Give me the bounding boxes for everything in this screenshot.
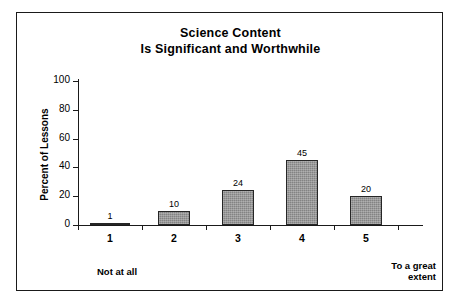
y-tick-label-0: 0 [40, 218, 70, 229]
y-tick-20: 20 [78, 196, 79, 197]
chart-title-line-1: Science Content [17, 25, 444, 41]
y-tick-label-40: 40 [40, 160, 70, 171]
bar-category-4[interactable]: 45 [286, 160, 318, 225]
bar-value-5: 20 [361, 184, 371, 194]
bar-value-4: 45 [297, 148, 307, 158]
y-axis-line [78, 79, 79, 227]
annotation-not-at-all: Not at all [97, 266, 137, 277]
y-tick-40: 40 [78, 167, 79, 168]
y-tick-label-20: 20 [40, 189, 70, 200]
x-category-label-1: 1 [107, 232, 113, 244]
bar-group-3: 24 3 [222, 81, 254, 225]
bar-value-3: 24 [233, 178, 243, 188]
bar-category-3[interactable]: 24 [222, 190, 254, 225]
annotation-high-line-1: To a great [336, 260, 436, 271]
x-axis-line [78, 225, 423, 226]
bar-group-2: 10 2 [158, 81, 190, 225]
bar-category-2[interactable]: 10 [158, 211, 190, 225]
x-category-label-3: 3 [235, 232, 241, 244]
chart-frame: Science Content Is Significant and Worth… [16, 12, 443, 291]
annotation-high-line-2: extent [336, 271, 436, 282]
bar-group-4: 45 4 [286, 81, 318, 225]
y-tick-60: 60 [78, 139, 79, 140]
x-tick-5 [398, 226, 399, 230]
bar-group-5: 20 5 [350, 81, 382, 225]
x-category-label-5: 5 [363, 232, 369, 244]
x-tick-3 [270, 226, 271, 230]
y-tick-label-100: 100 [40, 74, 70, 85]
plot-area: 0 20 40 60 80 100 [78, 81, 423, 225]
chart-title: Science Content Is Significant and Worth… [17, 25, 444, 57]
y-tick-label-80: 80 [40, 103, 70, 114]
bar-value-2: 10 [169, 199, 179, 209]
x-category-label-2: 2 [171, 232, 177, 244]
chart-title-line-2: Is Significant and Worthwhile [17, 41, 444, 57]
x-tick-4 [334, 226, 335, 230]
bar-group-1: 1 1 [90, 81, 130, 225]
chart-figure: Science Content Is Significant and Worth… [0, 0, 457, 305]
bar-value-1: 1 [107, 211, 112, 221]
y-tick-100: 100 [78, 81, 79, 82]
bar-category-5[interactable]: 20 [350, 196, 382, 225]
x-category-label-4: 4 [299, 232, 305, 244]
annotation-to-a-great-extent: To a great extent [336, 260, 436, 282]
y-tick-label-60: 60 [40, 132, 70, 143]
y-tick-80: 80 [78, 110, 79, 111]
x-tick-1 [142, 226, 143, 230]
bar-category-1[interactable]: 1 [90, 223, 130, 225]
x-tick-2 [206, 226, 207, 230]
x-tick-0 [78, 226, 79, 230]
